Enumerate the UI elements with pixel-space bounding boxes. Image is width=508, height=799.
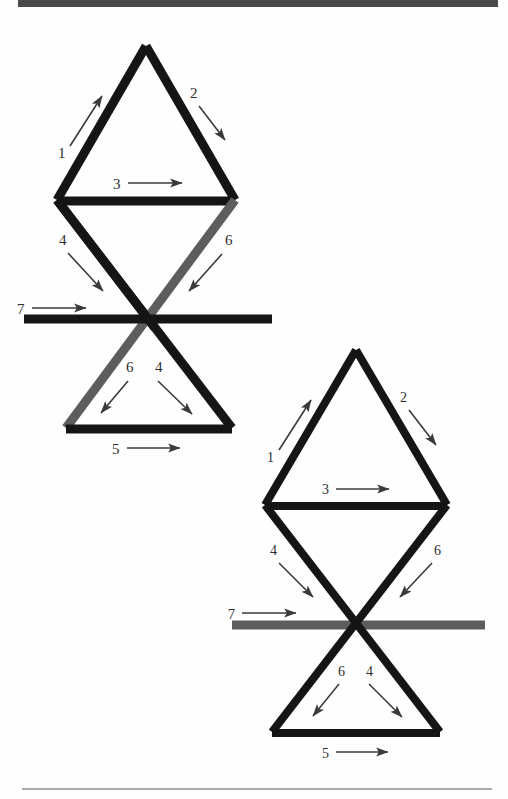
label-4-upper: 4: [59, 232, 67, 248]
label-4-lower: 4: [155, 359, 163, 375]
label2-3: 3: [322, 482, 329, 497]
label-6-lower: 6: [126, 359, 134, 375]
edge2-upper-left-1: [265, 350, 356, 505]
page-canvas: 1 2 3 4 6 6 4 5 7: [0, 0, 508, 799]
arrow-4-lower: [158, 381, 192, 414]
arrow2-6-upper: [400, 563, 432, 597]
figure-bottom-right: 1 2 3 4 6 6 4 5 7: [228, 350, 485, 761]
figure-top-left: 1 2 3 4 6 6 4 5 7: [17, 46, 272, 457]
edge2-descend-left-4: [265, 505, 440, 732]
edge-upper-left-1: [57, 46, 146, 200]
edge-upper-right-2: [146, 46, 235, 200]
label-5: 5: [112, 441, 120, 457]
label-7: 7: [17, 301, 25, 317]
label2-6-lower: 6: [338, 664, 345, 679]
label2-4-upper: 4: [270, 543, 277, 558]
label2-1: 1: [267, 450, 274, 465]
label-2: 2: [190, 85, 198, 101]
label-1: 1: [58, 145, 66, 161]
label2-4-lower: 4: [366, 664, 373, 679]
label2-5: 5: [322, 746, 329, 761]
arrow2-6-lower: [313, 684, 339, 716]
arrow2-4-upper: [279, 563, 313, 597]
arrow-2: [199, 106, 225, 140]
label2-2: 2: [400, 390, 407, 405]
diagram-svg: 1 2 3 4 6 6 4 5 7: [0, 0, 508, 799]
edge2-descend-right-6: [272, 505, 447, 732]
label2-7: 7: [228, 607, 235, 622]
label2-6-upper: 6: [434, 543, 441, 558]
label-6-upper: 6: [225, 232, 233, 248]
arrow2-4-lower: [369, 684, 402, 717]
edge2-upper-right-2: [356, 350, 447, 505]
arrow-6-lower: [101, 381, 128, 413]
label-3: 3: [113, 176, 121, 192]
